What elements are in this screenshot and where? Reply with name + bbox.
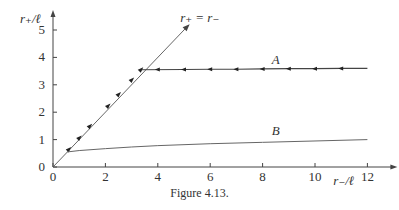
- arrow-marker-icon: [338, 66, 343, 70]
- arrow-marker-icon: [207, 67, 212, 71]
- y-axis-arrow-icon: [51, 10, 56, 17]
- figure-caption: Figure 4.13.: [0, 186, 399, 201]
- annotation-diagonal: r₊ = r₋: [180, 10, 219, 25]
- y-tick-label: 0: [39, 159, 46, 174]
- arrow-marker-icon: [260, 67, 265, 71]
- curve-a: [141, 68, 368, 69]
- annotation-b: B: [272, 123, 280, 138]
- x-axis-arrow-icon: [390, 165, 397, 170]
- x-tick-label: 0: [50, 169, 57, 184]
- x-tick-label: 4: [155, 169, 162, 184]
- arrow-marker-icon: [155, 68, 160, 72]
- x-tick-label: 12: [361, 169, 374, 184]
- chart-plot: 024681012012345r₋/ℓr₊/ℓr₊ = r₋AB: [0, 0, 399, 190]
- diagonal-line: [53, 27, 187, 167]
- arrow-marker-icon: [181, 67, 186, 71]
- x-tick-label: 2: [102, 169, 109, 184]
- y-tick-label: 3: [39, 77, 46, 92]
- arrow-marker-icon: [312, 67, 317, 71]
- y-axis-label: r₊/ℓ: [20, 11, 42, 26]
- y-tick-label: 2: [39, 104, 46, 119]
- y-tick-label: 1: [39, 132, 46, 147]
- x-tick-label: 10: [309, 169, 322, 184]
- arrow-marker-icon: [286, 67, 291, 71]
- x-tick-label: 8: [259, 169, 266, 184]
- arrow-marker-icon: [129, 77, 135, 83]
- curve-b: [67, 140, 367, 152]
- arrow-marker-icon: [233, 67, 238, 71]
- y-tick-label: 4: [39, 49, 46, 64]
- annotation-a: A: [271, 52, 280, 67]
- x-tick-label: 6: [207, 169, 214, 184]
